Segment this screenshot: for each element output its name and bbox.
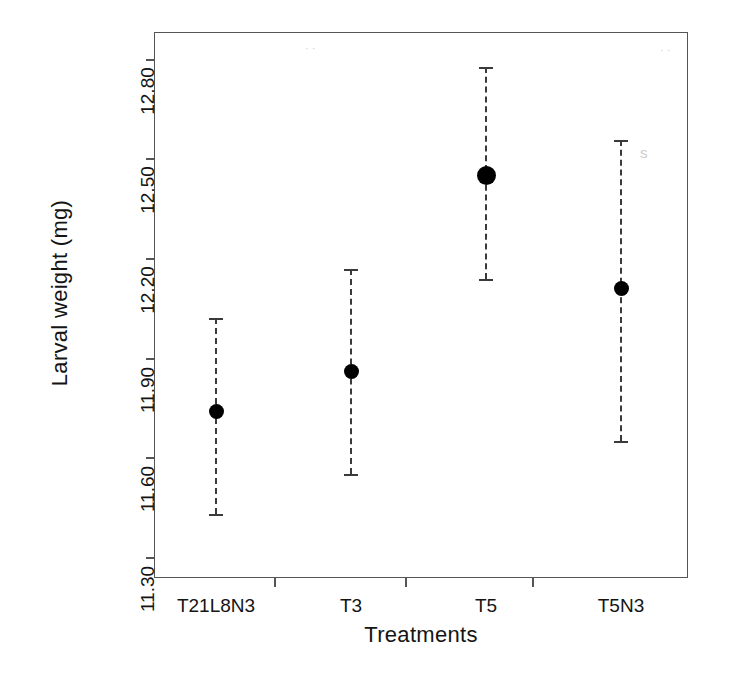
errorbar-cap-upper-t5 xyxy=(479,67,493,69)
chart-figure: Larval weight (mg) Treatments 12.80 12.5… xyxy=(0,0,735,685)
scan-artifact-t5n3: s xyxy=(640,144,648,161)
scan-artifact-right: · · xyxy=(660,44,670,56)
errorbar-cap-upper-t5n3 xyxy=(614,140,628,142)
x-tick-label-t5n3: T5N3 xyxy=(598,595,644,617)
y-tick-mark-11-30 xyxy=(146,557,155,559)
x-tick-mark-3 xyxy=(532,578,534,587)
x-tick-label-t21l8n3: T21L8N3 xyxy=(177,595,255,617)
x-tick-mark-2 xyxy=(405,578,407,587)
y-tick-mark-11-90 xyxy=(146,358,155,360)
x-tick-mark-1 xyxy=(274,578,276,587)
data-point-t5[interactable] xyxy=(477,166,496,185)
x-tick-label-t5: T5 xyxy=(475,595,497,617)
data-point-t5n3[interactable] xyxy=(614,281,629,296)
scan-artifact-top: · · xyxy=(305,42,315,54)
errorbar-cap-upper-t3 xyxy=(344,269,358,271)
data-point-t21l8n3[interactable] xyxy=(209,404,224,419)
y-axis-title: Larval weight (mg) xyxy=(47,163,73,423)
errorbar-cap-upper-t21l8n3 xyxy=(209,318,223,320)
y-tick-label-12-20: 12.20 xyxy=(137,260,159,320)
y-tick-mark-11-60 xyxy=(146,457,155,459)
data-point-t3[interactable] xyxy=(344,364,359,379)
y-tick-mark-12-50 xyxy=(146,158,155,160)
y-tick-label-12-80: 12.80 xyxy=(137,61,159,121)
x-axis-title: Treatments xyxy=(154,622,688,648)
y-tick-label-11-30: 11.30 xyxy=(137,559,159,619)
errorbar-cap-lower-t3 xyxy=(344,474,358,476)
x-tick-label-t3: T3 xyxy=(340,595,362,617)
errorbar-cap-lower-t21l8n3 xyxy=(209,514,223,516)
plot-area-frame xyxy=(154,32,688,578)
y-tick-mark-12-20 xyxy=(146,258,155,260)
y-tick-mark-12-80 xyxy=(146,59,155,61)
y-tick-label-12-50: 12.50 xyxy=(137,160,159,220)
y-tick-label-11-90: 11.90 xyxy=(137,360,159,420)
errorbar-cap-lower-t5 xyxy=(479,279,493,281)
errorbar-cap-lower-t5n3 xyxy=(614,441,628,443)
y-tick-label-11-60: 11.60 xyxy=(137,459,159,519)
